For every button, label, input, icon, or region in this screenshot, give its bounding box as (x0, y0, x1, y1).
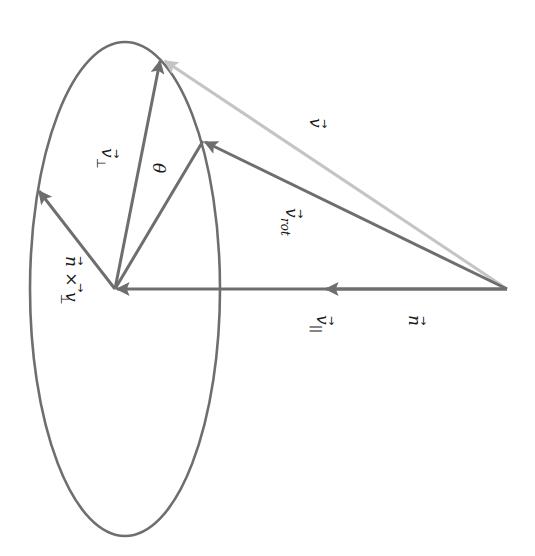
label-n-cross-v-perp: n × v ⊥ → → (58, 256, 87, 304)
vector-v (165, 61, 507, 289)
svg-text:→: → (294, 209, 307, 218)
label-v-perp: v ⊥ → (94, 148, 123, 168)
vector-v-rot (205, 142, 507, 289)
svg-text:⊥: ⊥ (58, 294, 72, 304)
svg-text:→: → (325, 316, 338, 325)
svg-text:→: → (417, 316, 430, 325)
label-v-parallel: v || → (309, 315, 338, 333)
svg-text:→: → (110, 149, 123, 158)
svg-text:θ: θ (149, 163, 169, 173)
rotation-diagram: v → v rot → v ⊥ → θ n × v ⊥ → → v || → n… (0, 0, 535, 556)
svg-text:||: || (309, 325, 323, 333)
svg-text:rot: rot (278, 218, 292, 236)
label-v: v → (306, 118, 331, 128)
label-theta: θ (149, 163, 169, 173)
svg-text:→: → (74, 256, 87, 265)
svg-text:→: → (318, 119, 331, 128)
label-v-rot: v rot → (278, 208, 307, 236)
svg-text:→: → (74, 283, 87, 292)
label-n: n → (405, 315, 430, 326)
svg-text:⊥: ⊥ (94, 158, 108, 168)
vector-v-perp (115, 61, 160, 289)
